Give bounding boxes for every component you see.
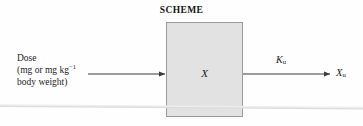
arrow-layer (0, 0, 363, 126)
rate-constant-label: Ku (276, 54, 286, 65)
scheme-figure: SCHEME Dose (mg or mg kg−1 body weight) … (0, 0, 363, 126)
rate-constant-symbol: K (276, 54, 283, 65)
output-subscript: u (342, 71, 345, 78)
rate-constant-subscript: u (283, 58, 286, 65)
output-amount-label: Xu (336, 67, 346, 78)
